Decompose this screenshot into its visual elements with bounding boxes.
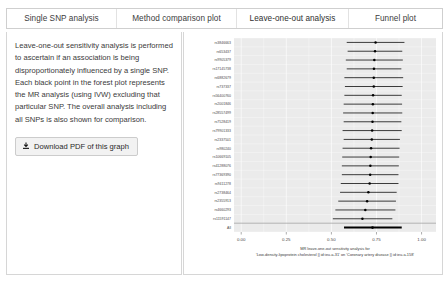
y-axis-tick-label: rs3846663 [214,41,231,45]
y-axis-tick-label: rs41288076 [213,164,232,168]
y-axis-tick-label: rs28557499 [213,111,232,115]
app-page: Single SNP analysis Method comparison pl… [0,0,448,283]
y-axis-tick-label: rs56400760 [213,94,232,98]
y-axis-tick-label: rs2738464 [214,191,231,195]
tab-leave-one-out-analysis[interactable]: Leave-one-out analysis [237,9,349,28]
y-axis-tick-label: rs653437 [216,50,231,54]
tab-single-snp-analysis[interactable]: Single SNP analysis [7,9,117,28]
download-pdf-button-label: Download PDF of this graph [34,142,129,151]
y-axis-tick-label: rs6882679 [214,76,231,80]
y-axis-tick-label: rs4660293 [214,208,231,212]
y-axis-tick-label: rs980240 [216,147,231,151]
download-icon [22,142,30,150]
y-axis-tick-label: rs79901333 [213,129,232,133]
tab-funnel-plot[interactable]: Funnel plot [349,9,442,28]
y-axis-tick-label: rs2355913 [214,199,231,203]
leave-one-out-forest-plot: rs3846663rs653437rs9905379rs17145738rs68… [184,32,442,273]
y-axis-tick-label: rs17145738 [213,67,232,71]
y-axis-tick-label: rs2337501 [214,138,231,142]
x-axis-tick-label: 1.00 [417,237,426,242]
y-axis-tick-label: rs9905379 [214,58,231,62]
download-pdf-button[interactable]: Download PDF of this graph [15,137,138,156]
x-axis-tick-label: 0.50 [327,237,336,242]
description-panel: Leave-one-out sensitivity analysis is pe… [6,32,182,275]
y-axis-tick-label: rs10669105 [213,155,232,159]
y-axis-tick-label: rs11591147 [213,217,231,221]
tab-method-comparison-plot[interactable]: Method comparison plot [117,9,237,28]
y-axis-tick-label: All [227,226,231,230]
y-axis-tick-label: rs77369390 [213,173,232,177]
plot-caption-line-1: MR leave-one-out sensitivity analysis fo… [300,246,370,251]
plot-caption-line-2: 'Low-density-lipoprotein cholesterol || … [256,252,414,257]
x-axis-tick-label: 0.75 [372,237,381,242]
tab-bar: Single SNP analysis Method comparison pl… [6,8,443,29]
y-axis-tick-label: rs737337 [216,85,231,89]
x-axis-tick-label: 0.25 [282,237,291,242]
x-axis-tick-label: 0.00 [237,237,246,242]
description-text: Leave-one-out sensitivity analysis is pe… [15,40,173,126]
forest-plot-panel[interactable]: rs3846663rs653437rs9905379rs17145738rs68… [183,32,443,275]
y-axis-tick-label: rs2001846 [214,102,231,106]
y-axis-tick-label: rs9411278 [215,182,231,186]
y-axis-tick-label: rs7528419 [214,120,231,124]
